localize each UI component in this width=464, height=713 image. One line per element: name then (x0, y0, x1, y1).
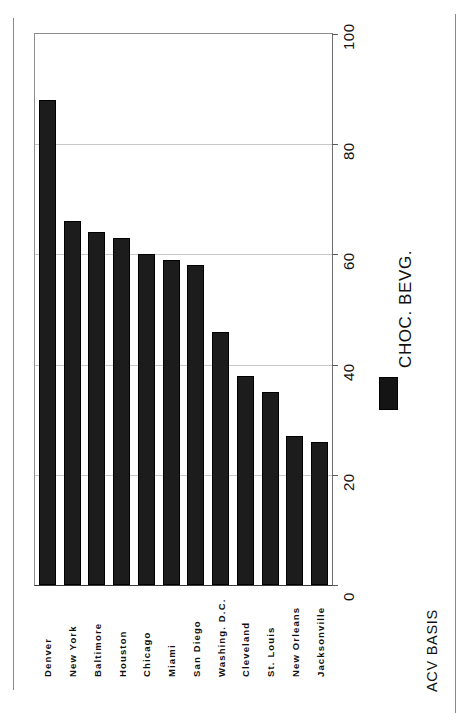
tick-label: 100 (340, 23, 357, 50)
bar (311, 442, 328, 585)
chart-plot-area (34, 33, 333, 586)
category-label: San Diego (191, 620, 202, 677)
axis-tick (332, 475, 338, 476)
bar (39, 100, 56, 585)
bar (138, 254, 155, 585)
tick-label: 0 (340, 592, 357, 601)
category-label: Washing. D.C. (216, 599, 227, 677)
page-rule-left (13, 18, 14, 690)
category-label: Jacksonville (315, 607, 326, 677)
bar (187, 265, 204, 585)
bar (237, 376, 254, 585)
tick-label: 40 (340, 363, 357, 381)
axis-tick (332, 365, 338, 366)
legend-label-choc-bevg: CHOC. BEVG. (396, 250, 416, 368)
axis-tick (332, 585, 338, 586)
bar (286, 436, 303, 585)
category-label: New York (67, 625, 78, 677)
legend-swatch-choc-bevg (379, 377, 398, 410)
axis-tick (332, 254, 338, 255)
axis-tick (332, 34, 338, 35)
bar (262, 392, 279, 585)
bar (163, 260, 180, 585)
category-label: Houston (117, 630, 128, 677)
axis-tick (332, 144, 338, 145)
bar (88, 232, 105, 585)
page-rule-right (455, 14, 456, 713)
bar (113, 238, 130, 585)
category-label: St. Louis (265, 627, 276, 677)
tick-label: 60 (340, 252, 357, 270)
category-label: Chicago (141, 631, 152, 677)
tick-label: 80 (340, 142, 357, 160)
category-label: Miami (166, 644, 177, 677)
category-label: Denver (42, 638, 53, 677)
category-label: Baltimore (92, 623, 103, 677)
gridline (35, 144, 332, 145)
category-label: New Orleans (290, 607, 301, 677)
chart-footnote: ACV BASIS (424, 609, 440, 692)
bar (212, 332, 229, 585)
tick-label: 20 (340, 473, 357, 491)
category-label: Cleveland (240, 622, 251, 677)
bar (64, 221, 81, 585)
